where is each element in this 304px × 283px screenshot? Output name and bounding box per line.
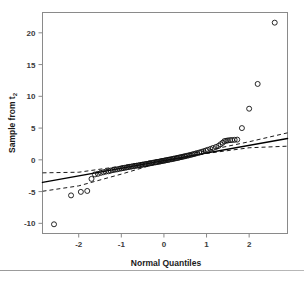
footer-divider <box>0 270 304 271</box>
x-tick-label: -2 <box>75 240 83 249</box>
x-tick-label: -1 <box>118 240 126 249</box>
x-tick-label: 2 <box>247 240 252 249</box>
x-tick-label: 0 <box>162 240 167 249</box>
x-tick-label: 1 <box>204 240 209 249</box>
x-axis-title-group: Normal Quantiles <box>131 258 202 268</box>
y-tick-label: 5 <box>31 124 36 133</box>
y-tick-label: -5 <box>28 188 36 197</box>
y-tick-label: 15 <box>27 61 36 70</box>
y-tick-label: -10 <box>24 219 36 228</box>
y-axis-title: Sample from t2 <box>7 92 18 153</box>
x-axis-title: Normal Quantiles <box>131 258 202 268</box>
qq-plot-figure: -2-1012 -10-505101520 Normal Quantiles S… <box>0 0 304 283</box>
y-tick-label: 0 <box>31 156 36 165</box>
y-tick-label: 10 <box>27 92 36 101</box>
y-axis-title-group: Sample from t2 <box>7 92 18 153</box>
y-tick-label: 20 <box>27 29 36 38</box>
qq-plot-canvas: -2-1012 -10-505101520 Normal Quantiles S… <box>0 0 304 283</box>
plot-background <box>0 0 304 283</box>
